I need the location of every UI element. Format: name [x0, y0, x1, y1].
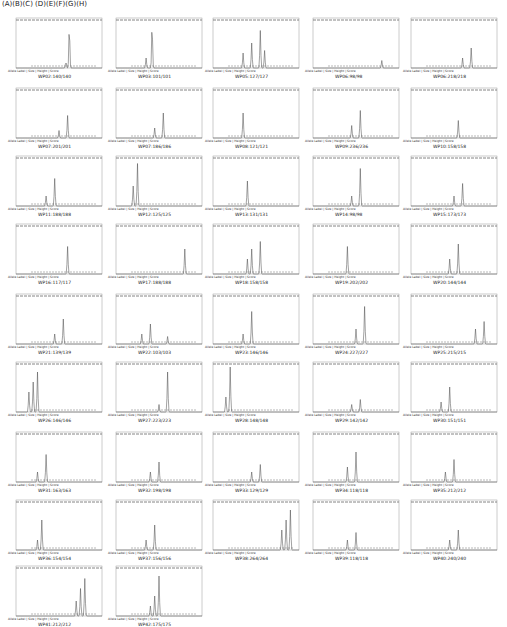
- chromatogram-panel: Allele Label | Size | Height | Score WP3…: [403, 358, 499, 424]
- panel-label: WP32:198/198: [138, 488, 171, 493]
- panel-label: WP07:186/186: [138, 144, 171, 149]
- panel-label: WP20:144/144: [433, 280, 466, 285]
- allele-meta: Allele Label | Size | Height | Score: [305, 345, 356, 349]
- panel-label: WP28:148/148: [235, 418, 268, 423]
- chromatogram-panel: Allele Label | Size | Height | Score WP2…: [403, 220, 499, 286]
- chromatogram-panel: Allele Label | Size | Height | Score WP2…: [305, 290, 401, 356]
- chromatogram-panel: Allele Label | Size | Height | Score WP1…: [108, 152, 204, 218]
- panel-label: WP07:201/201: [38, 144, 71, 149]
- panel-label: WP03:101/101: [138, 74, 171, 79]
- chromatogram-panel: Allele Label | Size | Height | Score WP3…: [305, 428, 401, 494]
- chromatogram-panel: Allele Label | Size | Height | Score WP2…: [205, 358, 301, 424]
- chromatogram-panel: Allele Label | Size | Height | Score WP3…: [108, 428, 204, 494]
- allele-meta: Allele Label | Size | Height | Score: [8, 69, 59, 73]
- chromatogram-panel: Allele Label | Size | Height | Score WP3…: [403, 428, 499, 494]
- allele-meta: Allele Label | Size | Height | Score: [8, 139, 59, 143]
- panel-label: WP06:98/98: [335, 74, 362, 79]
- allele-meta: Allele Label | Size | Height | Score: [108, 69, 159, 73]
- allele-meta: Allele Label | Size | Height | Score: [8, 551, 59, 555]
- panel-label: WP16:117/117: [38, 280, 71, 285]
- allele-meta: Allele Label | Size | Height | Score: [403, 483, 454, 487]
- allele-meta: Allele Label | Size | Height | Score: [8, 617, 59, 621]
- panel-label: WP11:188/188: [38, 212, 71, 217]
- allele-meta: Allele Label | Size | Height | Score: [205, 207, 256, 211]
- chromatogram-panel: Allele Label | Size | Height | Score WP0…: [305, 14, 401, 80]
- allele-meta: Allele Label | Size | Height | Score: [8, 207, 59, 211]
- allele-meta: Allele Label | Size | Height | Score: [403, 207, 454, 211]
- allele-meta: Allele Label | Size | Height | Score: [305, 275, 356, 279]
- panel-label: WP37:156/156: [138, 556, 171, 561]
- chromatogram-panel: Allele Label | Size | Height | Score WP0…: [205, 14, 301, 80]
- figure-header: (A)(B)(C) (D)(E)(F)(G)(H): [2, 0, 87, 8]
- allele-meta: Allele Label | Size | Height | Score: [305, 69, 356, 73]
- allele-meta: Allele Label | Size | Height | Score: [403, 551, 454, 555]
- chromatogram-panel: Allele Label | Size | Height | Score WP1…: [8, 152, 104, 218]
- allele-meta: Allele Label | Size | Height | Score: [205, 139, 256, 143]
- chromatogram-panel: Allele Label | Size | Height | Score WP0…: [8, 14, 104, 80]
- chromatogram-panel: Allele Label | Size | Height | Score WP2…: [108, 358, 204, 424]
- panel-label: WP14:98/98: [335, 212, 362, 217]
- chromatogram-panel: Allele Label | Size | Height | Score WP0…: [108, 14, 204, 80]
- allele-meta: Allele Label | Size | Height | Score: [108, 345, 159, 349]
- chromatogram-panel: Allele Label | Size | Height | Score WP2…: [205, 290, 301, 356]
- allele-meta: Allele Label | Size | Height | Score: [8, 345, 59, 349]
- panel-label: WP35:212/212: [433, 488, 466, 493]
- allele-meta: Allele Label | Size | Height | Score: [205, 551, 256, 555]
- allele-meta: Allele Label | Size | Height | Score: [8, 483, 59, 487]
- panel-label: WP22:103/103: [138, 350, 171, 355]
- chromatogram-panel: Allele Label | Size | Height | Score WP0…: [108, 84, 204, 150]
- chromatogram-panel: Allele Label | Size | Height | Score WP1…: [205, 152, 301, 218]
- allele-meta: Allele Label | Size | Height | Score: [108, 275, 159, 279]
- allele-meta: Allele Label | Size | Height | Score: [403, 345, 454, 349]
- panel-label: WP23:146/146: [235, 350, 268, 355]
- panel-label: WP30:151/151: [433, 418, 466, 423]
- allele-meta: Allele Label | Size | Height | Score: [205, 483, 256, 487]
- chromatogram-panel: Allele Label | Size | Height | Score WP2…: [8, 290, 104, 356]
- panel-label: WP21:139/139: [38, 350, 71, 355]
- allele-meta: Allele Label | Size | Height | Score: [305, 551, 356, 555]
- allele-meta: Allele Label | Size | Height | Score: [305, 207, 356, 211]
- chromatogram-panel: Allele Label | Size | Height | Score WP2…: [8, 358, 104, 424]
- chromatogram-panel: Allele Label | Size | Height | Score WP3…: [8, 496, 104, 562]
- chromatogram-panel: Allele Label | Size | Height | Score WP3…: [205, 428, 301, 494]
- allele-meta: Allele Label | Size | Height | Score: [108, 413, 159, 417]
- panel-label: WP18:158/158: [235, 280, 268, 285]
- allele-meta: Allele Label | Size | Height | Score: [205, 413, 256, 417]
- panel-label: WP19:202/202: [335, 280, 368, 285]
- chromatogram-panel: Allele Label | Size | Height | Score WP1…: [305, 220, 401, 286]
- panel-label: WP06:218/218: [433, 74, 466, 79]
- chromatogram-panel: Allele Label | Size | Height | Score WP4…: [403, 496, 499, 562]
- panel-label: WP17:188/188: [138, 280, 171, 285]
- chromatogram-panel: Allele Label | Size | Height | Score WP1…: [403, 152, 499, 218]
- panel-label: WP05:127/127: [235, 74, 268, 79]
- chromatogram-panel: Allele Label | Size | Height | Score WP1…: [108, 220, 204, 286]
- allele-meta: Allele Label | Size | Height | Score: [108, 207, 159, 211]
- panel-label: WP38:264/264: [235, 556, 268, 561]
- allele-meta: Allele Label | Size | Height | Score: [8, 413, 59, 417]
- allele-meta: Allele Label | Size | Height | Score: [205, 69, 256, 73]
- allele-meta: Allele Label | Size | Height | Score: [205, 275, 256, 279]
- allele-meta: Allele Label | Size | Height | Score: [108, 617, 159, 621]
- panel-label: WP41:212/212: [38, 622, 71, 627]
- chromatogram-panel: Allele Label | Size | Height | Score WP1…: [305, 152, 401, 218]
- panel-label: WP08:121/121: [235, 144, 268, 149]
- chromatogram-panel: Allele Label | Size | Height | Score WP4…: [108, 562, 204, 627]
- chromatogram-panel: Allele Label | Size | Height | Score WP3…: [205, 496, 301, 562]
- panel-label: WP36:154/154: [38, 556, 71, 561]
- allele-meta: Allele Label | Size | Height | Score: [403, 69, 454, 73]
- allele-meta: Allele Label | Size | Height | Score: [108, 551, 159, 555]
- panel-label: WP13:131/131: [235, 212, 268, 217]
- chromatogram-panel: Allele Label | Size | Height | Score WP1…: [403, 84, 499, 150]
- chromatogram-panel: Allele Label | Size | Height | Score WP3…: [108, 496, 204, 562]
- panel-label: WP26:146/146: [38, 418, 71, 423]
- panel-label: WP34:118/118: [335, 488, 368, 493]
- allele-meta: Allele Label | Size | Height | Score: [305, 483, 356, 487]
- allele-meta: Allele Label | Size | Height | Score: [305, 413, 356, 417]
- panel-label: WP25:215/215: [433, 350, 466, 355]
- allele-meta: Allele Label | Size | Height | Score: [205, 345, 256, 349]
- chromatogram-panel: Allele Label | Size | Height | Score WP3…: [305, 496, 401, 562]
- panel-label: WP39:118/118: [335, 556, 368, 561]
- panel-label: WP09:236/236: [335, 144, 368, 149]
- chromatogram-panel: Allele Label | Size | Height | Score WP1…: [8, 220, 104, 286]
- chromatogram-panel: Allele Label | Size | Height | Score WP2…: [305, 358, 401, 424]
